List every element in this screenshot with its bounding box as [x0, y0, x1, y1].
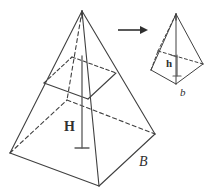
large-height-indicator [75, 56, 89, 148]
small-lateral-edge-left [151, 14, 176, 70]
large-cross-section-front-right [88, 73, 116, 99]
small-base-edge-front-right [176, 64, 203, 84]
large-base-label: B [139, 155, 148, 169]
large-cross-section-back-right [72, 57, 116, 73]
small-base-edge-back-right [158, 51, 203, 64]
pyramid-similarity-figure: H B h b [0, 0, 214, 195]
large-lateral-edge-front [82, 11, 99, 186]
large-base-edge-back-right [67, 100, 155, 134]
scaling-arrow-head [140, 26, 148, 34]
small-lateral-edge-back-hidden [158, 14, 176, 51]
small-height-label: h [166, 58, 172, 69]
small-base-edge-front-left [151, 70, 176, 84]
small-base-label: b [180, 87, 186, 98]
large-lateral-edge-back-hidden [67, 11, 82, 100]
large-cross-section-back-left [44, 57, 72, 83]
small-lateral-edge-right [176, 14, 203, 64]
large-base-edge-back-left [10, 100, 67, 153]
large-base-edge-front-left [10, 153, 99, 186]
large-height-label: H [64, 120, 75, 134]
scaling-arrow-group [118, 26, 148, 34]
